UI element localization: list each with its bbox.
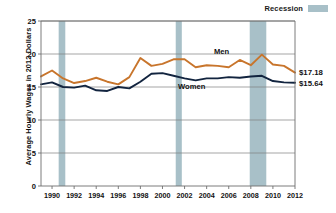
end-value-women: $15.64 bbox=[299, 79, 324, 88]
y-tick-label-0: 0 bbox=[32, 182, 36, 191]
series-annotation-men: Men bbox=[214, 47, 230, 56]
x-tick-label-2012: 2012 bbox=[287, 191, 303, 200]
y-tick-label-5: 5 bbox=[32, 149, 37, 158]
recession-band-3 bbox=[250, 21, 267, 186]
y-tick-label-20: 20 bbox=[28, 50, 36, 59]
plot-area: 0510152025 19901992199419961998200020022… bbox=[0, 0, 336, 213]
recession-band-2 bbox=[176, 21, 182, 186]
x-tick-labels: 1990199219941996199820002002200420062008… bbox=[44, 191, 303, 200]
x-tick-label-1990: 1990 bbox=[44, 191, 60, 200]
recession-bands-layer bbox=[59, 21, 267, 186]
x-tick-label-2002: 2002 bbox=[177, 191, 193, 200]
y-tick-labels: 0510152025 bbox=[28, 17, 37, 191]
x-tick-label-1998: 1998 bbox=[132, 191, 148, 200]
x-tick-label-1994: 1994 bbox=[88, 191, 104, 200]
y-tick-label-15: 15 bbox=[28, 83, 37, 92]
end-value-men: $17.18 bbox=[299, 68, 324, 77]
x-tick-label-2000: 2000 bbox=[154, 191, 170, 200]
x-tick-label-2010: 2010 bbox=[265, 191, 281, 200]
y-tick-label-10: 10 bbox=[28, 116, 36, 125]
x-tick-label-2004: 2004 bbox=[199, 191, 215, 200]
recession-band-1 bbox=[59, 21, 66, 186]
wage-chart: Recession Average Hourly Wages in 2012 D… bbox=[0, 0, 336, 213]
x-tick-label-2006: 2006 bbox=[221, 191, 237, 200]
x-tick-label-1992: 1992 bbox=[66, 191, 82, 200]
series-annotation-women: Women bbox=[178, 82, 206, 91]
x-tick-label-2008: 2008 bbox=[243, 191, 259, 200]
x-tick-label-1996: 1996 bbox=[110, 191, 126, 200]
y-tick-label-25: 25 bbox=[28, 17, 37, 26]
